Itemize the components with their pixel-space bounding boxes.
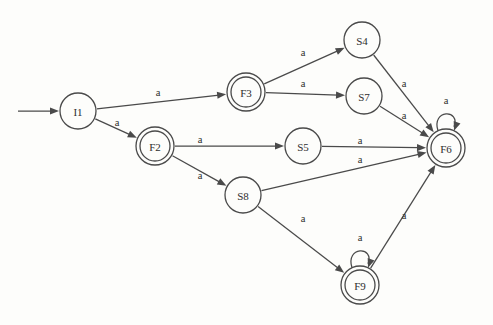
edge-I1-to-F2 (95, 119, 130, 135)
edge-label-S8-to-F6: a (358, 154, 363, 165)
arrowhead-I1-to-F3 (217, 92, 226, 99)
arrowhead-S7-to-F6 (420, 129, 430, 137)
edge-label-S4-to-F6: a (402, 78, 407, 89)
node-layer: I1F3F2S4S7S5S8F6F9 (60, 22, 465, 304)
arrowhead-F9-to-F6 (428, 165, 436, 175)
edge-label-F2-to-S8: a (198, 170, 203, 181)
edge-label-S8-to-F9: a (301, 213, 306, 224)
node-F6[interactable]: F6 (427, 129, 465, 167)
arrowhead-S4-to-F6 (425, 123, 433, 132)
edge-S8-to-F6 (262, 154, 420, 191)
edge-label-I1-to-F3: a (156, 87, 161, 98)
state-machine-diagram: I1F3F2S4S7S5S8F6F9 aaaaaaaaaaaaaa (0, 0, 493, 325)
edge-S5-to-F6 (322, 146, 419, 147)
node-I1[interactable]: I1 (60, 93, 96, 129)
arrowhead-F3-to-S4 (335, 48, 345, 55)
node-S5[interactable]: S5 (285, 128, 321, 164)
edge-label-F9-to-F6: a (402, 210, 407, 221)
node-S7[interactable]: S7 (346, 78, 382, 114)
arrowhead-F3-to-S7 (336, 91, 345, 98)
edge-label-I1-to-F2: a (115, 117, 120, 128)
arrowhead-S8-to-F9 (335, 264, 344, 272)
node-F3[interactable]: F3 (227, 73, 265, 111)
node-F2[interactable]: F2 (136, 127, 174, 165)
node-F9[interactable]: F9 (341, 266, 379, 304)
node-label-S7: S7 (358, 91, 370, 103)
node-label-F2: F2 (149, 141, 161, 153)
edge-F3-to-S7 (266, 93, 338, 95)
edge-label-S7-to-F6: a (402, 110, 407, 121)
edge-label-S5-to-F6: a (358, 135, 363, 146)
edge-label-F3-to-S7: a (301, 78, 306, 89)
self-loop-F9 (351, 251, 369, 268)
edge-label-F6-to-F6: a (444, 95, 449, 106)
edge-S8-to-F9 (258, 207, 339, 269)
edge-label-F3-to-S4: a (301, 47, 306, 58)
arrowhead-S8-to-F6 (417, 151, 427, 158)
arrowhead-F2-to-S8 (217, 178, 227, 186)
node-label-I1: I1 (73, 106, 82, 118)
node-label-F9: F9 (354, 280, 366, 292)
arrowhead-S5-to-F6 (417, 144, 426, 151)
node-label-S5: S5 (297, 141, 309, 153)
automaton-canvas: I1F3F2S4S7S5S8F6F9 aaaaaaaaaaaaaa (0, 0, 493, 325)
node-label-F3: F3 (240, 87, 252, 99)
self-loop-F6 (437, 114, 455, 131)
node-label-S8: S8 (237, 190, 249, 202)
edge-label-F9-to-F9: a (358, 232, 363, 243)
node-label-S4: S4 (356, 35, 368, 47)
node-label-F6: F6 (440, 143, 452, 155)
edge-label-F2-to-S5: a (198, 134, 203, 145)
arrowhead-F2-to-S5 (275, 142, 284, 149)
edge-F2-to-S8 (172, 156, 220, 183)
start-arrowhead (50, 107, 59, 114)
self-loop-arrowhead-F6 (454, 121, 461, 131)
arrowhead-I1-to-F2 (127, 131, 137, 138)
node-S4[interactable]: S4 (344, 22, 380, 58)
node-S8[interactable]: S8 (225, 177, 261, 213)
